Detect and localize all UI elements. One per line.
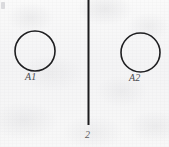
engineering-drawing-figure: A1 A2 2 — [0, 0, 169, 147]
axis-line-label: 2 — [85, 130, 90, 140]
right-circle-label: A2 — [129, 73, 141, 83]
left-circle-shape — [15, 31, 55, 71]
left-circle-label: A1 — [25, 72, 37, 82]
right-circle-shape — [121, 33, 160, 72]
